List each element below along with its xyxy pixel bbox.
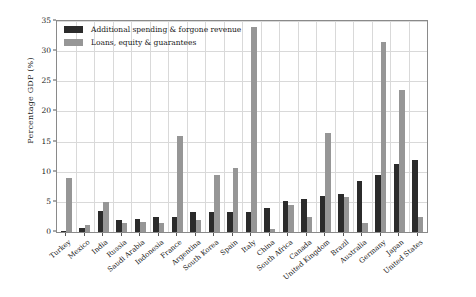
bar bbox=[418, 217, 424, 232]
x-axis-tick-mark bbox=[417, 233, 418, 236]
x-axis-tick-mark bbox=[84, 233, 85, 236]
x-axis-tick-mark bbox=[139, 233, 140, 236]
y-axis-tick-mark bbox=[53, 170, 56, 171]
x-axis-tick-mark bbox=[398, 233, 399, 236]
legend-swatch-icon bbox=[64, 39, 83, 46]
legend-item: Loans, equity & guarantees bbox=[64, 38, 241, 47]
bars-layer bbox=[57, 21, 427, 232]
chart-legend: Additional spending & forgone revenue Lo… bbox=[64, 25, 241, 51]
bar bbox=[381, 42, 387, 232]
legend-item-label: Additional spending & forgone revenue bbox=[91, 25, 241, 34]
bar bbox=[103, 202, 109, 232]
x-axis-tick-mark bbox=[287, 233, 288, 236]
x-axis-tick-mark bbox=[121, 233, 122, 236]
bar bbox=[362, 223, 368, 232]
bar bbox=[399, 90, 405, 232]
legend-swatch-icon bbox=[64, 26, 83, 33]
x-axis-tick-mark bbox=[380, 233, 381, 236]
y-axis-tick-mark bbox=[53, 80, 56, 81]
x-axis-tick-mark bbox=[65, 233, 66, 236]
x-axis-tick-mark bbox=[213, 233, 214, 236]
y-axis-tick-mark bbox=[53, 140, 56, 141]
bar bbox=[159, 223, 165, 232]
plot-area bbox=[56, 20, 428, 233]
bar bbox=[85, 225, 91, 232]
bar bbox=[177, 136, 183, 232]
bar bbox=[140, 222, 146, 232]
x-axis-tick-mark bbox=[232, 233, 233, 236]
bar-chart: Percentage GDP (%) 05101520253035 Turkey… bbox=[0, 0, 476, 297]
y-axis-tick-mark bbox=[53, 110, 56, 111]
x-axis-tick-mark bbox=[269, 233, 270, 236]
bar bbox=[233, 168, 239, 232]
bar bbox=[214, 175, 220, 232]
y-axis-tick-mark bbox=[53, 200, 56, 201]
x-axis-tick-mark bbox=[102, 233, 103, 236]
x-axis-tick-mark bbox=[324, 233, 325, 236]
bar bbox=[66, 178, 72, 232]
x-axis-tick-mark bbox=[343, 233, 344, 236]
x-axis-tick-mark bbox=[158, 233, 159, 236]
y-axis-title: Percentage GDP (%) bbox=[26, 26, 35, 176]
bar bbox=[270, 229, 276, 232]
legend-item: Additional spending & forgone revenue bbox=[64, 25, 241, 34]
bar bbox=[307, 217, 313, 232]
bar bbox=[122, 223, 128, 232]
x-axis-tick-mark bbox=[195, 233, 196, 236]
bar bbox=[288, 205, 294, 232]
bar bbox=[344, 197, 350, 232]
y-axis-tick-mark bbox=[53, 50, 56, 51]
y-axis-tick-mark bbox=[53, 20, 56, 21]
y-axis-tick-mark bbox=[53, 231, 56, 232]
bar bbox=[325, 133, 331, 232]
x-axis-tick-mark bbox=[306, 233, 307, 236]
x-axis-tick-mark bbox=[250, 233, 251, 236]
bar bbox=[196, 220, 202, 232]
x-axis-tick-mark bbox=[176, 233, 177, 236]
x-axis-tick-mark bbox=[361, 233, 362, 236]
legend-item-label: Loans, equity & guarantees bbox=[91, 38, 196, 47]
bar bbox=[251, 27, 257, 232]
